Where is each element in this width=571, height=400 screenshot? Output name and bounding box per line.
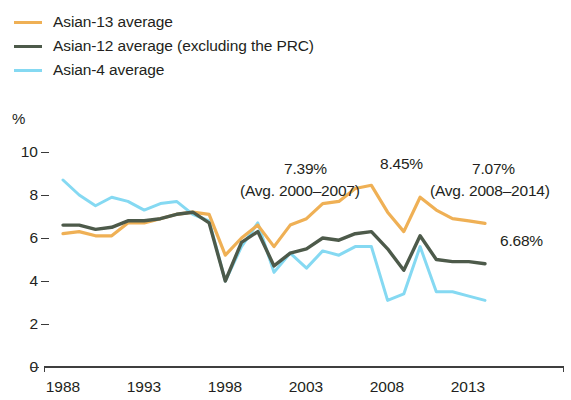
annotation-peak-2007: 8.45% <box>380 155 423 173</box>
chart-container: Asian-13 average Asian-12 average (exclu… <box>0 0 571 400</box>
annotation-avg-2000-2007-range: (Avg. 2000–2007) <box>240 182 360 200</box>
annotation-avg-2008-2014-range: (Avg. 2008–2014) <box>430 182 550 200</box>
annotation-avg-2000-2007-value: 7.39% <box>284 160 327 178</box>
chart-plot-area <box>0 0 571 400</box>
annotation-avg-2008-2014-value: 7.07% <box>472 160 515 178</box>
annotation-endpoint-2014: 6.68% <box>500 232 543 250</box>
